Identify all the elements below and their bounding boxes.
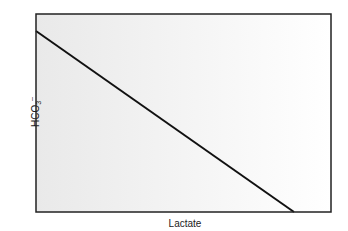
chart: HCO3– Lactate [0, 0, 348, 231]
plot-background [36, 14, 331, 212]
y-axis-label: HCO3– [24, 82, 40, 142]
x-axis-label: Lactate [150, 218, 220, 229]
plot-area [0, 0, 348, 231]
